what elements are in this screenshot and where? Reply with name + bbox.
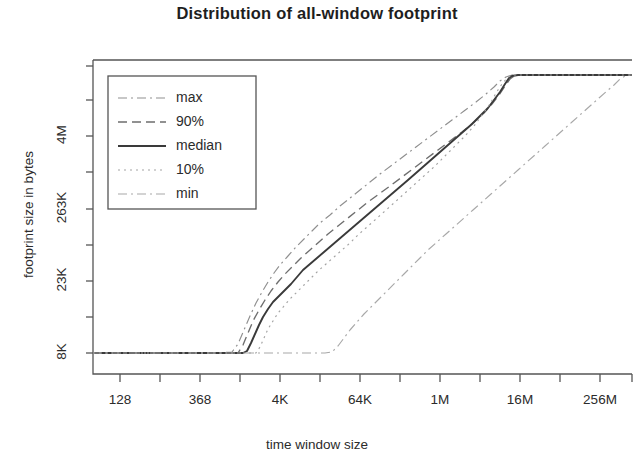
x-tick-label: 368 xyxy=(160,392,240,407)
x-tick-label: 256M xyxy=(560,392,634,407)
y-tick-label: 8K xyxy=(54,324,69,380)
y-tick-label: 23K xyxy=(54,252,69,308)
x-tick-label: 128 xyxy=(80,392,160,407)
x-tick-label: 1M xyxy=(400,392,480,407)
legend-label-median: median xyxy=(176,137,222,153)
y-tick-label: 4M xyxy=(54,107,69,163)
chart-title: Distribution of all-window footprint xyxy=(0,4,634,23)
x-axis-label: time window size xyxy=(0,437,634,452)
legend-label-90pct: 90% xyxy=(176,113,204,129)
x-tick-label: 16M xyxy=(480,392,560,407)
y-tick-label: 263K xyxy=(54,180,69,236)
y-axis-label: footprint size in bytes xyxy=(21,105,36,325)
x-tick-label: 4K xyxy=(240,392,320,407)
legend-label-max: max xyxy=(176,89,202,105)
x-tick-label: 64K xyxy=(320,392,400,407)
chart-figure: Distribution of all-window footprint foo… xyxy=(0,0,634,466)
legend-label-min: min xyxy=(176,185,199,201)
legend-label-10pct: 10% xyxy=(176,161,204,177)
